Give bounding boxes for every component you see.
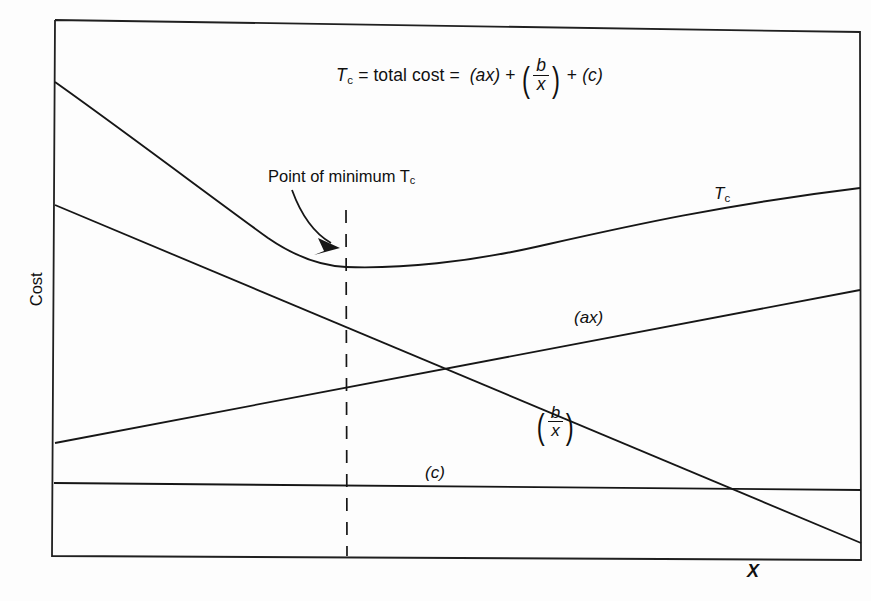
annotation-subscript: c — [410, 174, 416, 186]
total-cost-formula: Tc = total cost = (ax) + (bx) + (c) — [336, 57, 603, 95]
formula-plus-first: + — [505, 65, 515, 85]
curve-label-tc-subscript: c — [724, 192, 730, 204]
figure-page: Tc = total cost = (ax) + (bx) + (c) Poin… — [0, 0, 871, 601]
curve-label-bx-fraction: bx — [548, 404, 563, 440]
formula-paren-close: ) — [552, 64, 560, 96]
annotation-arrow-curve — [292, 190, 331, 243]
plot-frame — [52, 20, 861, 560]
curve-label-ax-text: (ax) — [574, 308, 603, 327]
curve-label-ax: (ax) — [574, 309, 603, 326]
curve-label-c-text: (c) — [425, 463, 445, 482]
minimum-dashed-line — [346, 210, 347, 556]
curve-label-c: (c) — [425, 464, 445, 481]
curve-ax — [55, 290, 860, 443]
annotation-text: Point of minimum T — [268, 167, 410, 185]
minimum-point-annotation: Point of minimum Tc — [268, 168, 415, 186]
curve-c — [54, 483, 861, 490]
y-axis-title: Cost — [28, 249, 45, 329]
curve-label-b-over-x: (bx) — [535, 404, 576, 442]
formula-fraction: bx — [533, 57, 549, 94]
x-axis-title: X — [747, 562, 759, 580]
formula-term-ax: (ax) — [470, 65, 501, 85]
curve-label-tc-symbol: T — [714, 184, 724, 203]
curve-b-over-x — [55, 205, 861, 543]
curve-label-bx-denominator: x — [548, 422, 563, 439]
formula-term-c: (c) — [582, 65, 603, 85]
formula-fraction-denominator: x — [533, 76, 549, 94]
formula-symbol-subscript: c — [347, 74, 353, 86]
curve-label-bx-paren-close: ) — [566, 411, 574, 443]
curve-label-bx-paren-open: ( — [537, 411, 545, 443]
formula-plus-second: + — [567, 65, 577, 85]
formula-equals-total-cost: = total cost = — [358, 65, 460, 85]
formula-symbol: T — [336, 65, 347, 85]
formula-paren-open: ( — [522, 64, 530, 96]
curve-total-cost — [55, 82, 860, 267]
curve-label-tc: Tc — [714, 185, 730, 204]
curve-label-bx-numerator: b — [548, 404, 563, 422]
